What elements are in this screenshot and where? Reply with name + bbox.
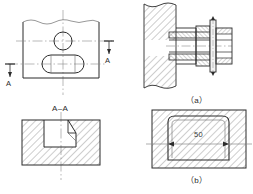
- engineering-drawing-canvas: [0, 0, 253, 194]
- caption-detail-b: （b）: [186, 177, 207, 185]
- nut-hatch-lower: [216, 58, 232, 64]
- section-arrow-left: [5, 64, 15, 77]
- sleeve-wall-upper: [169, 32, 211, 38]
- view-detail-a: [144, 0, 232, 92]
- break-line-wavy: [23, 20, 99, 24]
- wall-hatch-lower: [144, 56, 178, 92]
- view-section-aa: [22, 112, 100, 180]
- section-view-title: A–A: [52, 105, 68, 113]
- section-label-a-right: A: [105, 57, 110, 65]
- pin-tip-bottom: [211, 72, 215, 76]
- section-label-a-left: A: [6, 80, 11, 88]
- view-detail-b: [146, 110, 252, 168]
- recess-diagonal: [68, 133, 76, 141]
- sleeve-wall-lower: [169, 54, 211, 60]
- collar-hatch-lower: [196, 60, 210, 66]
- drawing-sheet: A A A–A （a） （b） 50: [0, 0, 253, 194]
- dimension-value-50: 50: [194, 131, 203, 139]
- pin-tip-top: [211, 16, 215, 20]
- section-arrow-right: [104, 41, 114, 54]
- caption-detail-a: （a）: [186, 97, 207, 105]
- view-front-top-left: [5, 10, 114, 95]
- collar-hatch-upper: [196, 26, 210, 32]
- nut-hatch-upper: [216, 28, 232, 34]
